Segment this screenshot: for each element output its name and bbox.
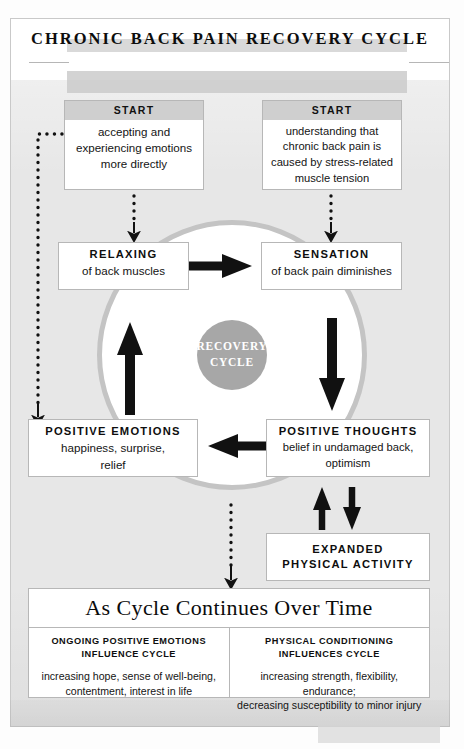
continuation-col1-header-line1: ONGOING POSITIVE EMOTIONS xyxy=(35,635,223,648)
node-start-left-body: accepting and experiencing emotions more… xyxy=(65,120,203,178)
continuation-panel: As Cycle Continues Over Time ONGOING POS… xyxy=(28,588,430,698)
node-start-right[interactable]: START understanding that chronic back pa… xyxy=(262,100,402,190)
node-expanded-line1: EXPANDED xyxy=(312,543,383,556)
continuation-title: As Cycle Continues Over Time xyxy=(29,589,429,628)
node-sensation-body: of back pain diminishes xyxy=(262,262,401,284)
node-expanded-line2: PHYSICAL ACTIVITY xyxy=(282,556,413,571)
node-start-left[interactable]: START accepting and experiencing emotion… xyxy=(64,100,204,190)
node-expanded-physical-activity[interactable]: EXPANDED PHYSICAL ACTIVITY xyxy=(266,533,430,581)
page-bottom-shading xyxy=(10,700,450,727)
watermark xyxy=(318,726,440,743)
node-sensation[interactable]: SENSATION of back pain diminishes xyxy=(261,242,402,290)
continuation-col1-header-line2: INFLUENCE CYCLE xyxy=(35,648,223,661)
node-start-left-header: START xyxy=(65,101,203,120)
continuation-col2-header-line1: PHYSICAL CONDITIONING xyxy=(236,635,424,648)
continuation-col1-body: increasing hope, sense of well-being, co… xyxy=(35,669,223,699)
node-start-right-body: understanding that chronic back pain is … xyxy=(263,120,401,193)
node-positive-thoughts-body: belief in undamaged back, optimism xyxy=(267,439,429,477)
node-positive-emotions[interactable]: POSITIVE EMOTIONS happiness, surprise, r… xyxy=(28,419,198,477)
node-positive-thoughts-header: POSITIVE THOUGHTS xyxy=(267,420,429,439)
continuation-column-emotions: ONGOING POSITIVE EMOTIONS INFLUENCE CYCL… xyxy=(29,628,230,698)
title-band xyxy=(10,18,450,80)
recovery-cycle-core: RECOVERY CYCLE xyxy=(197,320,267,390)
cycle-core-line2: CYCLE xyxy=(210,355,254,371)
node-positive-emotions-body: happiness, surprise, relief xyxy=(29,439,197,478)
title-rule-left xyxy=(29,62,69,63)
node-sensation-header: SENSATION xyxy=(262,243,401,262)
title-shade-bottom xyxy=(67,71,407,93)
node-positive-thoughts[interactable]: POSITIVE THOUGHTS belief in undamaged ba… xyxy=(266,419,430,477)
node-relaxing-body: of back muscles xyxy=(59,262,188,284)
continuation-columns: ONGOING POSITIVE EMOTIONS INFLUENCE CYCL… xyxy=(29,628,429,698)
node-positive-emotions-header: POSITIVE EMOTIONS xyxy=(29,420,197,439)
page-title: CHRONIC BACK PAIN RECOVERY CYCLE xyxy=(10,29,450,49)
diagram-canvas: CHRONIC BACK PAIN RECOVERY CYCLE RECOVER… xyxy=(0,0,464,749)
node-start-right-header: START xyxy=(263,101,401,120)
continuation-column-conditioning: PHYSICAL CONDITIONING INFLUENCES CYCLE i… xyxy=(230,628,430,698)
title-rule-right xyxy=(409,62,449,63)
continuation-col2-header-line2: INFLUENCES CYCLE xyxy=(236,648,424,661)
node-relaxing-header: RELAXING xyxy=(59,243,188,262)
node-relaxing[interactable]: RELAXING of back muscles xyxy=(58,242,189,290)
cycle-core-line1: RECOVERY xyxy=(197,339,268,355)
